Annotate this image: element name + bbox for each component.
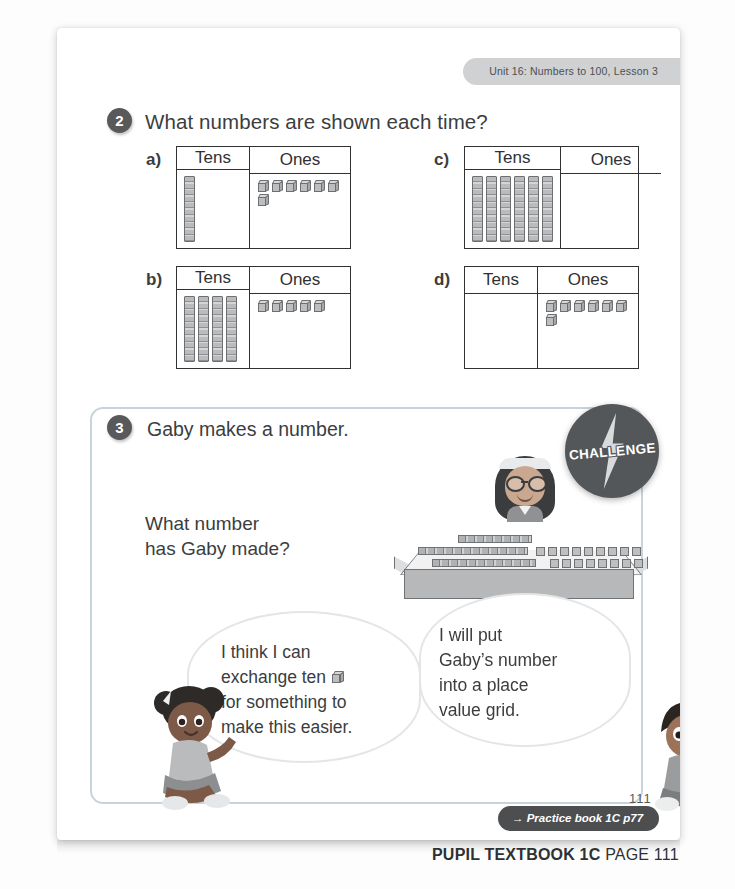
challenge-badge: CHALLENGE — [565, 404, 659, 498]
grid-label-a: a) — [146, 150, 161, 170]
grid-label-b: b) — [146, 270, 162, 290]
ones-header: Ones — [538, 267, 638, 294]
tens-body — [177, 290, 249, 368]
ones-header: Ones — [561, 147, 661, 174]
tens-stick — [542, 176, 553, 242]
grid-label-d: d) — [434, 270, 450, 290]
ones-cube — [587, 300, 600, 313]
table-ones-cube — [622, 559, 631, 568]
ones-cube — [285, 300, 298, 313]
tens-body — [465, 294, 537, 368]
tens-stick — [514, 176, 525, 242]
tens-column: Tens — [177, 147, 250, 248]
page-folio: 111 — [629, 791, 652, 806]
table-ones-cube — [550, 559, 559, 568]
bubble-right-line4: value grid. — [439, 698, 624, 723]
place-value-grid-c: Tens Ones — [464, 146, 639, 249]
tens-stick — [184, 296, 195, 362]
tens-header: Tens — [465, 147, 560, 170]
table-ones-cube — [634, 559, 643, 568]
table-ones-cube — [620, 547, 629, 556]
tens-header: Tens — [465, 267, 537, 294]
gaby-character — [489, 452, 561, 520]
ones-cube — [285, 180, 298, 193]
place-value-grid-b: Tens Ones — [176, 266, 351, 369]
bubble-left-line1: I think I can — [221, 640, 421, 665]
question-2-number: 2 — [107, 108, 132, 133]
textbook-page: Unit 16: Numbers to 100, Lesson 3 2 What… — [57, 28, 680, 840]
practice-book-label: Practice book 1C p77 — [527, 812, 643, 824]
tens-stick — [500, 176, 511, 242]
table-tens-stick — [432, 559, 536, 567]
table-ones-cube — [584, 547, 593, 556]
table-ones-cube — [536, 547, 545, 556]
place-value-grid-a: Tens Ones — [176, 146, 351, 249]
table-ones-cube — [572, 547, 581, 556]
gaby-glasses-bridge — [521, 481, 528, 483]
ones-body — [538, 294, 638, 368]
tens-stick — [486, 176, 497, 242]
grid-label-c: c) — [434, 150, 449, 170]
place-value-grid-d: Tens Ones — [464, 266, 639, 369]
bubble-left-line2: exchange ten — [221, 665, 421, 690]
bubble-right-line2: Gaby’s number — [439, 648, 624, 673]
unit-lesson-tab: Unit 16: Numbers to 100, Lesson 3 — [463, 58, 680, 85]
caption-book: PUPIL TEXTBOOK 1C — [432, 846, 600, 863]
table-ones-cube — [548, 547, 557, 556]
ones-cube — [299, 300, 312, 313]
gaby-glasses-left — [506, 476, 525, 492]
ones-header: Ones — [250, 267, 350, 294]
ones-cube — [313, 180, 326, 193]
tens-stick — [226, 296, 237, 362]
table-ones-cube — [610, 559, 619, 568]
child-character-left — [145, 683, 241, 811]
gaby-glasses-right — [528, 476, 547, 492]
ones-body — [250, 294, 350, 368]
ones-column: Ones — [250, 147, 350, 248]
question-3-subprompt-line2: has Gaby made? — [145, 536, 290, 561]
ones-column: Ones — [250, 267, 350, 368]
ones-cube — [257, 180, 270, 193]
ones-column: Ones — [538, 267, 638, 368]
tens-header: Tens — [177, 267, 249, 290]
ones-cube — [271, 300, 284, 313]
tens-body — [465, 170, 560, 248]
bubble-left-line3: for something to — [221, 690, 421, 715]
challenge-badge-label: CHALLENGE — [568, 440, 656, 462]
table-ones-cube — [598, 559, 607, 568]
ones-body — [561, 174, 661, 248]
tens-column: Tens — [465, 147, 561, 248]
ones-cube — [271, 180, 284, 193]
tens-stick — [184, 176, 195, 242]
tens-stick — [212, 296, 223, 362]
tens-column: Tens — [465, 267, 538, 368]
ones-header: Ones — [250, 147, 350, 174]
tens-stick — [472, 176, 483, 242]
question-3-subprompt: What number has Gaby made? — [145, 511, 290, 561]
question-3-number: 3 — [107, 415, 132, 440]
ones-cube — [573, 300, 586, 313]
ones-cube — [327, 180, 340, 193]
table-ones-cube — [632, 547, 641, 556]
table-with-blocks-illustration — [390, 517, 652, 599]
ones-cube — [299, 180, 312, 193]
page-caption: PUPIL TEXTBOOK 1C PAGE 111 — [432, 846, 679, 864]
caption-page: PAGE 111 — [605, 846, 679, 863]
ones-body — [250, 174, 350, 248]
bubble-left-line4: make this easier. — [221, 715, 421, 740]
tens-column: Tens — [177, 267, 250, 368]
question-3-prompt: Gaby makes a number. — [147, 418, 349, 441]
table-ones-cube — [586, 559, 595, 568]
arrow-right-icon: → — [512, 812, 524, 824]
practice-book-link[interactable]: → Practice book 1C p77 — [498, 806, 659, 831]
tens-header: Tens — [177, 147, 249, 170]
ones-cube-icon — [332, 671, 345, 684]
table-ones-cube — [574, 559, 583, 568]
speech-bubble-right-text: I will put Gaby’s number into a place va… — [439, 623, 624, 723]
table-tens-stick — [418, 547, 528, 555]
table-ones-cube — [596, 547, 605, 556]
ones-cube — [313, 300, 326, 313]
ones-cube — [601, 300, 614, 313]
table-ones-cube — [608, 547, 617, 556]
ones-cube — [545, 314, 558, 327]
